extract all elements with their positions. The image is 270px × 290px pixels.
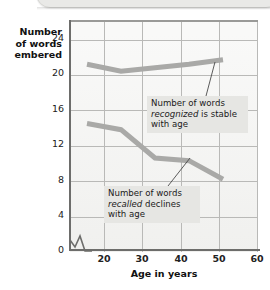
annotation-recalled-rest: declines [142, 199, 180, 209]
series-layer [0, 0, 270, 290]
annotation-recalled-emphasis: recalled [108, 199, 142, 209]
leader-line-recognized [206, 62, 215, 96]
annotation-recalled: Number of words recalled declines with a… [104, 186, 200, 223]
annotation-recalled-line-3: with age [108, 209, 145, 219]
annotation-recognized-line-1: Number of words [151, 98, 225, 108]
chart-figure: 24 20 16 12 8 4 0 20 30 40 50 60 70 Numb… [0, 0, 270, 290]
annotation-recognized-emphasis: recognized [151, 109, 198, 119]
annotation-recalled-line-1: Number of words [108, 188, 182, 198]
annotation-recognized: Number of words recognized is stable wit… [147, 96, 248, 133]
data-line-recognized [87, 60, 223, 72]
annotation-recognized-rest: is stable [198, 109, 237, 119]
annotation-recognized-line-3: with age [151, 119, 188, 129]
axis-break-mark [70, 236, 92, 251]
